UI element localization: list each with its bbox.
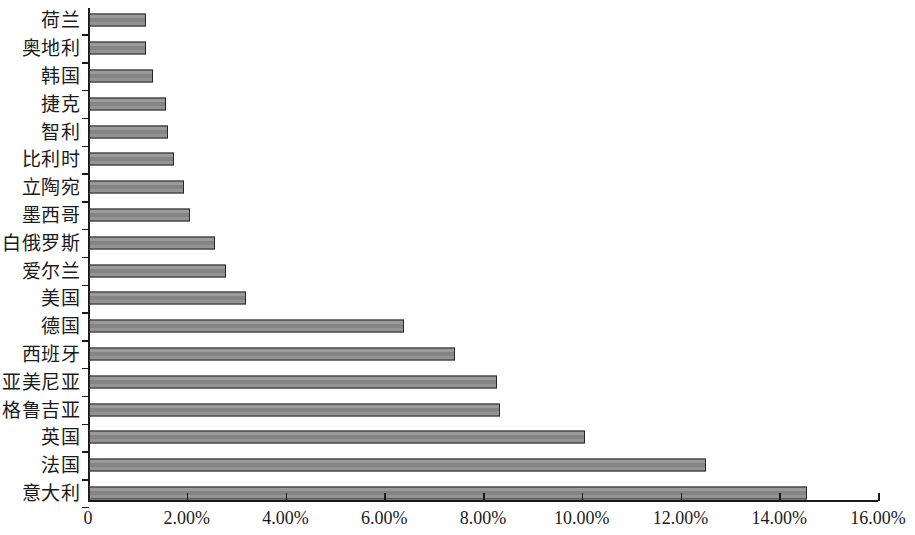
bar-chart: 荷兰奥地利韩国捷克智利比利时立陶宛墨西哥白俄罗斯爱尔兰美国德国西班牙亚美尼亚格鲁… [0,0,915,535]
y-axis-tick [82,285,89,287]
bar [89,292,246,305]
bar-row: 白俄罗斯 [0,229,915,257]
category-label: 德国 [41,317,80,336]
bar-row: 美国 [0,285,915,313]
x-axis-tick-label: 0 [84,506,93,531]
bar [89,14,146,27]
x-axis-tick [681,493,683,501]
y-axis-tick [82,173,89,175]
x-axis-tick-label: 6.00% [361,506,408,531]
category-label: 法国 [41,456,80,475]
y-axis-tick [82,118,89,120]
category-label: 墨西哥 [22,205,81,224]
bar-row: 爱尔兰 [0,257,915,285]
x-axis-tick [286,493,288,501]
y-axis-tick [82,424,89,426]
bar-row: 捷克 [0,90,915,118]
category-label: 立陶宛 [22,178,81,197]
bar-row: 韩国 [0,62,915,90]
y-axis-tick [82,479,89,481]
bar [89,125,168,138]
bar [89,459,706,472]
category-label: 美国 [41,289,80,308]
x-axis-tick [878,493,880,501]
y-axis-tick [82,90,89,92]
bar [89,431,585,444]
category-label: 英国 [41,428,80,447]
category-label: 白俄罗斯 [2,233,80,252]
bar [89,97,166,110]
category-label: 奥地利 [22,39,81,58]
y-axis-tick [82,312,89,314]
bar [89,486,807,499]
y-axis-tick [82,368,89,370]
bar [89,347,455,360]
bar-row: 意大利 [0,479,915,507]
y-axis-tick [82,62,89,64]
x-axis-tick-label: 12.00% [653,506,709,531]
bar-row: 格鲁吉亚 [0,396,915,424]
x-axis-tick-label: 14.00% [752,506,808,531]
y-axis-tick [82,451,89,453]
category-label: 智利 [41,122,80,141]
bar-row: 比利时 [0,146,915,174]
category-label: 爱尔兰 [22,261,81,280]
category-label: 意大利 [22,483,81,502]
bar [89,69,153,82]
x-axis-tick [483,493,485,501]
y-axis-tick [82,340,89,342]
y-axis-tick [82,257,89,259]
bar [89,403,500,416]
x-axis-tick-label: 10.00% [554,506,610,531]
category-label: 西班牙 [22,344,81,363]
x-axis-tick-label: 4.00% [262,506,309,531]
category-label: 韩国 [41,66,80,85]
bar [89,320,404,333]
category-label: 荷兰 [41,11,80,30]
y-axis-tick [82,34,89,36]
bar-row: 荷兰 [0,7,915,35]
y-axis-tick [82,146,89,148]
x-axis-tick [187,493,189,501]
x-axis-tick [582,493,584,501]
bar-row: 墨西哥 [0,201,915,229]
bar-row: 亚美尼亚 [0,368,915,396]
x-axis-tick-label: 8.00% [460,506,507,531]
bar-row: 智利 [0,118,915,146]
y-axis-tick [82,201,89,203]
bar-row: 立陶宛 [0,173,915,201]
y-axis-tick [82,229,89,231]
bar-row: 德国 [0,312,915,340]
bar [89,153,174,166]
bar [89,208,190,221]
x-axis-tick [779,493,781,501]
bar [89,42,146,55]
bar [89,375,497,388]
category-label: 比利时 [22,150,81,169]
category-label: 亚美尼亚 [2,372,80,391]
category-label: 捷克 [41,94,80,113]
bar-row: 法国 [0,451,915,479]
x-axis-tick [384,493,386,501]
bar-row: 奥地利 [0,34,915,62]
y-axis-tick [82,396,89,398]
bar-row: 西班牙 [0,340,915,368]
bar [89,236,215,249]
bar [89,264,226,277]
plot-area: 荷兰奥地利韩国捷克智利比利时立陶宛墨西哥白俄罗斯爱尔兰美国德国西班牙亚美尼亚格鲁… [0,0,915,535]
x-axis-tick-label: 16.00% [850,506,906,531]
x-axis-tick-label: 2.00% [164,506,211,531]
bar-row: 英国 [0,424,915,452]
category-label: 格鲁吉亚 [2,400,80,419]
bar [89,181,184,194]
